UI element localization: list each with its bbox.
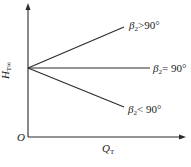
x-axis-label: QT — [102, 143, 114, 156]
label-beta-eq-90: β2= 90° — [153, 63, 186, 76]
label-beta-gt-90: β2>90° — [129, 20, 160, 33]
curve-beta-gt-90 — [28, 27, 124, 68]
y-axis-arrow-icon — [26, 3, 31, 10]
y-axis-subscript: T∞ — [5, 62, 13, 71]
x-axis-symbol: Q — [102, 142, 110, 154]
origin-label: O — [17, 132, 25, 143]
curve-beta-lt-90 — [28, 68, 124, 107]
label-condition: < 90° — [137, 103, 161, 115]
label-beta-lt-90: β2< 90° — [128, 104, 161, 117]
x-axis-subscript: T — [110, 148, 114, 156]
diagram-canvas — [0, 0, 191, 167]
label-condition: >90° — [138, 19, 160, 31]
label-condition: = 90° — [162, 62, 186, 74]
y-axis-symbol: H — [0, 71, 11, 79]
y-axis-label: HT∞ — [0, 62, 13, 79]
x-axis-arrow-icon — [179, 135, 186, 140]
